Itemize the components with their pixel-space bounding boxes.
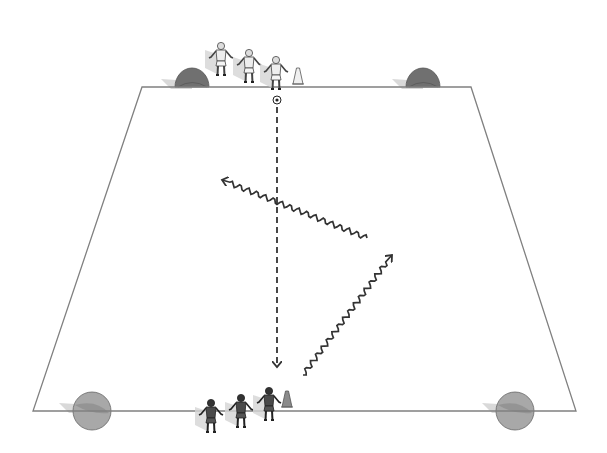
movement-lines bbox=[222, 107, 392, 375]
run-right-arrow bbox=[303, 255, 392, 375]
run-left-arrow bbox=[222, 180, 367, 238]
ball-icon bbox=[273, 96, 281, 104]
drill-diagram bbox=[0, 0, 607, 453]
top-left-goal bbox=[161, 68, 209, 89]
team-bottom bbox=[195, 387, 293, 433]
cone-icon bbox=[282, 391, 292, 407]
player-icon bbox=[260, 56, 288, 90]
players-layer bbox=[195, 42, 304, 433]
cone-icon bbox=[293, 68, 303, 84]
player-icon bbox=[253, 387, 281, 421]
team-top bbox=[205, 42, 304, 90]
player-icon bbox=[195, 399, 223, 433]
player-icon bbox=[205, 42, 233, 76]
field-boundary bbox=[33, 87, 576, 411]
player-icon bbox=[233, 49, 261, 83]
top-right-goal bbox=[392, 68, 440, 89]
